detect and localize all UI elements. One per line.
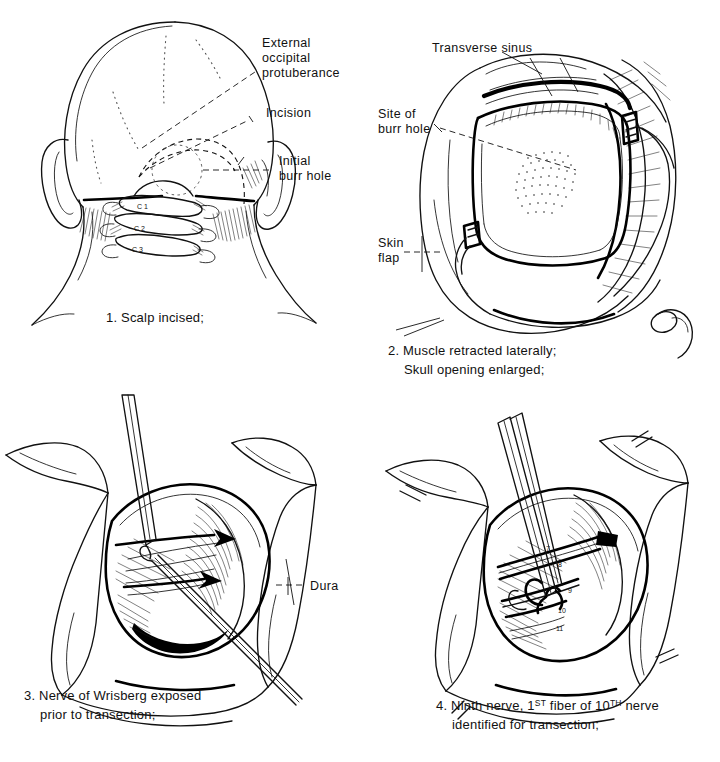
cervical-vertebrae: C 1 C 2 C 3	[100, 181, 219, 263]
label-initial-burr-hole-line2: burr hole	[279, 169, 332, 183]
label-skin-flap-line2: flap	[378, 251, 400, 265]
cranial-nerve-bundles: 7 8 9 10 11	[498, 531, 618, 639]
leader-lines	[142, 72, 270, 170]
panel-4-caption-mid: fiber of 10	[546, 698, 610, 713]
panel-1-caption: 1. Scalp incised;	[106, 310, 204, 325]
vertebra-label-c1: C 1	[137, 203, 148, 210]
skin-flap-folds	[434, 140, 468, 294]
label-external-occipital-protuberance-line2: occipital	[262, 51, 310, 65]
nerve-of-wrisberg	[116, 529, 236, 589]
shading-hatch	[80, 161, 262, 241]
panel-1-labels: External occipital protuberance Incision…	[262, 36, 340, 183]
retracted-muscle	[598, 60, 676, 312]
label-dura: Dura	[310, 579, 339, 593]
vertebra-label-c2: C 2	[134, 225, 145, 232]
panel-2-caption-line-2: Skull opening enlarged;	[404, 362, 544, 377]
scalp-stipple	[92, 36, 221, 183]
label-site-of-burr-hole-line2: burr hole	[378, 122, 431, 136]
label-transverse-sinus: Transverse sinus	[432, 41, 532, 55]
self-retaining-retractor	[455, 112, 692, 358]
surgical-instruments	[122, 395, 302, 705]
panel-3-caption-line-1: 3. Nerve of Wrisberg exposed	[24, 688, 201, 703]
panel-3-nerve-of-wrisberg: Dura 3. Nerve of Wrisberg exposed prior …	[0, 395, 370, 762]
panel-4-caption-lead: 4. Ninth nerve, 1	[436, 698, 535, 713]
nerve-number-8: 8	[558, 561, 562, 568]
craniectomy-window	[473, 102, 631, 266]
panel-1-scalp-incised: C 1 C 2 C 3 External occipital protubera…	[0, 0, 360, 390]
panel-4-caption-tail: nerve	[622, 698, 659, 713]
transverse-sinus-band	[484, 77, 630, 108]
nerve-number-11: 11	[556, 625, 563, 632]
label-initial-burr-hole-line1: Initial	[279, 154, 311, 168]
panel-4-caption-line-1: 4. Ninth nerve, 1ST fiber of 10TH nerve	[436, 698, 659, 713]
label-external-occipital-protuberance-line1: External	[262, 36, 311, 50]
panel-3-caption-line-2: prior to transection;	[40, 707, 155, 722]
panel-4-caption-line-2: identified for transection;	[452, 717, 599, 732]
surgical-instruments	[498, 413, 562, 613]
panel-2-labels: Transverse sinus Site of burr hole Skin …	[378, 41, 532, 265]
label-external-occipital-protuberance-line3: protuberance	[262, 66, 340, 80]
label-site-of-burr-hole-line1: Site of	[378, 107, 416, 121]
illustration-page: C 1 C 2 C 3 External occipital protubera…	[0, 0, 720, 762]
panel-4-caption-sup-1st: ST	[535, 698, 546, 708]
panel-2-muscle-retracted: Transverse sinus Site of burr hole Skin …	[360, 0, 720, 400]
label-skin-flap-line1: Skin	[378, 236, 404, 250]
dura-flaps	[6, 438, 316, 726]
panel-4-ninth-nerve-identified: 7 8 9 10 11	[370, 395, 720, 762]
label-incision: Incision	[266, 106, 311, 120]
panel-2-caption-line-1: 2. Muscle retracted laterally;	[388, 343, 557, 358]
nerve-number-9: 9	[568, 587, 572, 594]
panel-4-caption-sup-10th: TH	[610, 698, 622, 708]
vertebra-label-c3: C 3	[132, 246, 143, 253]
